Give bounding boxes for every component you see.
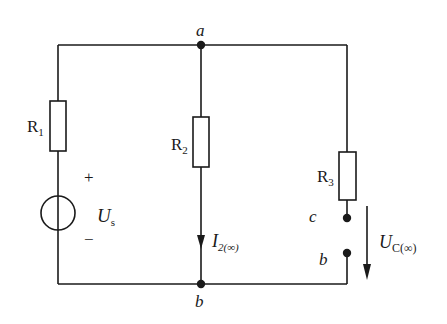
source-minus-sign: − bbox=[84, 230, 94, 249]
voltage-arrowhead-icon bbox=[363, 264, 371, 280]
node-c-dot bbox=[343, 214, 351, 222]
current-arrow-icon bbox=[197, 235, 205, 249]
resistor-r2 bbox=[193, 117, 209, 167]
r3-label: R3 bbox=[317, 167, 334, 188]
node-b-dot bbox=[197, 280, 205, 288]
source-label: Us bbox=[97, 205, 115, 228]
resistor-r1 bbox=[50, 101, 66, 151]
circuit-diagram: a b c b R1 R2 R3 + − Us I2(∞) UC(∞) bbox=[0, 0, 447, 324]
node-a-label: a bbox=[196, 21, 205, 40]
node-b-right-dot bbox=[343, 249, 351, 257]
r1-label: R1 bbox=[27, 117, 44, 138]
node-b-label: b bbox=[195, 292, 204, 311]
r2-label: R2 bbox=[171, 135, 188, 156]
node-c-label: c bbox=[309, 207, 317, 226]
voltage-label: UC(∞) bbox=[379, 232, 417, 255]
node-a-dot bbox=[197, 41, 205, 49]
node-b-right-label: b bbox=[319, 250, 328, 269]
resistor-r3 bbox=[339, 152, 356, 200]
current-label: I2(∞) bbox=[211, 231, 239, 254]
source-plus-sign: + bbox=[84, 168, 94, 187]
